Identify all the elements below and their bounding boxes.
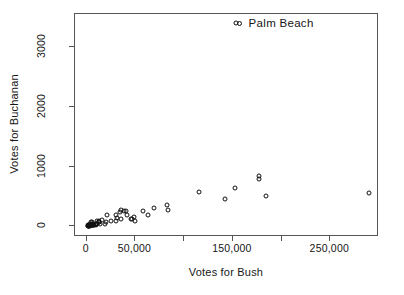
- x-axis-tick: [281, 236, 282, 241]
- y-axis-tick-label: 0: [35, 222, 47, 228]
- data-point: [196, 190, 201, 195]
- data-point: [223, 197, 228, 202]
- y-axis-tick-label: 2000: [35, 94, 47, 118]
- x-axis-tick: [134, 236, 135, 241]
- data-point: [117, 209, 122, 214]
- data-point: [115, 215, 120, 220]
- x-axis-tick-label: 250,000: [310, 242, 349, 254]
- data-point: [257, 174, 262, 179]
- palm-beach-annotation: Palm Beach: [237, 17, 314, 29]
- x-axis-tick: [232, 236, 233, 241]
- x-axis-tick: [86, 236, 87, 241]
- data-point: [232, 185, 237, 190]
- data-points-layer: [75, 14, 377, 235]
- data-point: [130, 216, 135, 221]
- x-axis-tick-label: 0: [83, 242, 89, 254]
- scatter-chart-figure: Votes for Buchanan Votes for Bush 050,00…: [0, 0, 404, 295]
- x-axis-tick-label: 150,000: [212, 242, 251, 254]
- data-point: [145, 212, 150, 217]
- x-axis-title: Votes for Bush: [74, 266, 378, 278]
- y-axis-tick-label: 1000: [35, 154, 47, 178]
- plot-area: [74, 13, 378, 236]
- data-point: [165, 208, 170, 213]
- data-point: [151, 206, 156, 211]
- x-axis-tick-label: 50,000: [118, 242, 151, 254]
- data-point: [108, 219, 113, 224]
- data-point: [366, 190, 371, 195]
- y-axis-tick-label: 3000: [35, 34, 47, 58]
- y-axis-title: Votes for Buchanan: [8, 74, 20, 174]
- data-point: [94, 218, 99, 223]
- annotation-label: Palm Beach: [249, 17, 314, 29]
- data-point: [165, 203, 170, 208]
- data-point: [264, 194, 269, 199]
- annotation-marker-icon: [237, 21, 242, 26]
- data-point: [124, 208, 129, 213]
- x-axis-tick: [329, 236, 330, 241]
- data-point: [104, 212, 109, 217]
- x-axis-tick: [183, 236, 184, 241]
